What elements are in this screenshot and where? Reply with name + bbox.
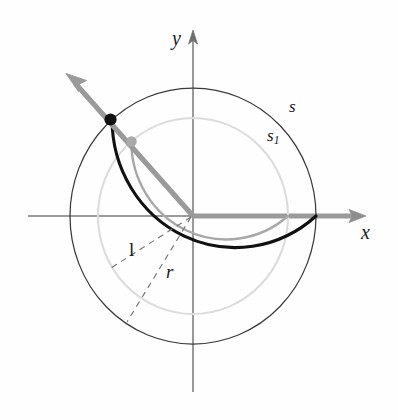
point-on-inner-circle <box>126 136 136 146</box>
point-on-outer-circle <box>104 113 116 125</box>
inner-arc-highlight <box>131 142 288 240</box>
outer-arc-label: s <box>289 98 296 115</box>
y-axis-label: y <box>172 28 181 48</box>
inner-arc-label-base: s <box>267 126 274 145</box>
outer-arc-highlight <box>112 119 316 248</box>
inner-radius-label: l <box>129 240 134 259</box>
inner-arc-label: s1 <box>267 127 279 147</box>
dashed-radius-outer <box>127 217 191 322</box>
figure-canvas: y x s s1 l r <box>0 0 398 420</box>
x-axis-label: x <box>361 222 370 242</box>
diagram-svg <box>0 0 398 420</box>
dashed-radius-inner <box>111 217 191 268</box>
inner-arc-label-subscript: 1 <box>274 134 280 147</box>
outer-radius-label: r <box>166 262 173 281</box>
